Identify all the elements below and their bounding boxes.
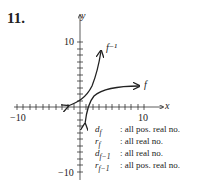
legend-row: df: all pos. real no. (95, 124, 180, 137)
x-min-label: −10 (10, 112, 26, 123)
y-min-label: −10 (58, 167, 74, 178)
curve-f-inverse (68, 51, 101, 106)
curve-label-f: f (144, 79, 147, 90)
legend-row: df−1: all real no. (95, 148, 163, 161)
y-max-label: 10 (64, 36, 74, 47)
x-max-label: 10 (138, 112, 148, 123)
y-axis-label: y (81, 10, 85, 21)
x-axis-label: x (165, 100, 169, 111)
legend-row: rf: all real no. (95, 136, 163, 149)
curve-label-f-inverse: f⁻¹ (106, 42, 117, 53)
legend-row: rf−1: all pos. real no. (95, 160, 180, 173)
